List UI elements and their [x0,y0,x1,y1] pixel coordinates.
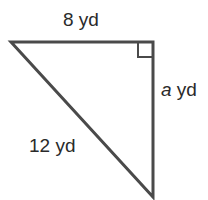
top-side-label: 8 yd [63,10,99,29]
right-side-label: a yd [161,80,197,99]
hypotenuse-label: 12 yd [29,136,75,155]
right-triangle [11,42,153,197]
variable-a: a [161,79,172,100]
right-angle-marker [138,42,153,57]
triangle-figure [0,0,208,200]
right-side-unit: yd [172,79,197,100]
